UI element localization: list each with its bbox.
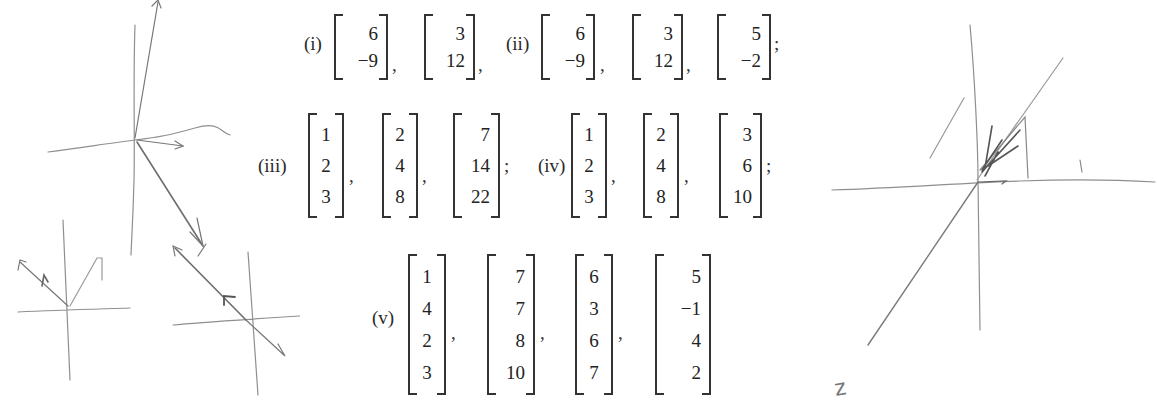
separator: , <box>540 322 545 344</box>
vector-v-3: 6367 <box>575 254 613 395</box>
vector-iii-1: 123 <box>308 113 344 218</box>
sketch-arrow-up <box>135 2 158 138</box>
separator: , <box>600 54 605 76</box>
problem-label-iv: (iv) <box>538 155 565 177</box>
vector-ii-1: 6−9 <box>541 14 595 80</box>
right-pencil-sketch: z <box>820 0 1157 408</box>
separator: , <box>422 165 427 187</box>
sketch-axis-horizontal <box>48 126 230 152</box>
sketch-small-axes-2 <box>173 252 300 395</box>
separator: , <box>686 54 691 76</box>
vector-ii-3: 5−2 <box>717 14 771 80</box>
vector-iv-1: 123 <box>571 113 607 218</box>
vector-v-1: 1423 <box>408 254 446 395</box>
separator: , <box>611 165 616 187</box>
left-pencil-sketches <box>0 0 300 408</box>
sketch-axis-z <box>868 182 978 345</box>
separator: , <box>684 165 689 187</box>
sketch-arrow-right <box>137 140 183 146</box>
vector-v-2: 77810 <box>487 254 535 395</box>
vector-iv-3: 3610 <box>719 113 762 218</box>
sketch-z-label: z <box>832 374 848 401</box>
vector-v-4: 5−142 <box>655 254 711 395</box>
problem-label-iii: (iii) <box>258 155 287 177</box>
problem-label-ii: (ii) <box>506 33 529 55</box>
sketch-arrow-down-right <box>137 142 203 246</box>
sketch-arrow-cluster <box>982 126 1020 176</box>
vector-iii-2: 248 <box>382 113 418 218</box>
problem-label-i: (i) <box>304 33 322 55</box>
separator: ; <box>774 33 779 55</box>
separator: , <box>349 165 354 187</box>
vector-ii-2: 312 <box>632 14 683 80</box>
vector-iii-3: 71422 <box>453 113 500 218</box>
problem-label-v: (v) <box>372 307 394 329</box>
separator: , <box>478 54 483 76</box>
separator: ; <box>504 155 509 177</box>
vector-i-1: 6−9 <box>334 14 388 80</box>
separator: , <box>618 322 623 344</box>
separator: , <box>392 54 397 76</box>
separator: ; <box>766 155 771 177</box>
vector-iv-2: 248 <box>643 113 679 218</box>
separator: , <box>451 322 456 344</box>
vector-i-2: 312 <box>424 14 475 80</box>
